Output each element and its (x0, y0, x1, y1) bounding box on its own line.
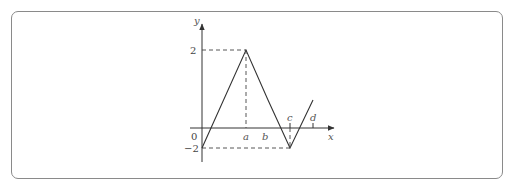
x-axis-label: x (328, 131, 334, 142)
origin-label: 0 (191, 131, 197, 142)
function-curve (202, 50, 313, 148)
function-graph: y x 0 2 −2 a b c d (0, 0, 515, 183)
y-tick-2: 2 (190, 45, 196, 56)
y-tick-neg2: −2 (184, 143, 199, 154)
x-point-b: b (262, 131, 268, 142)
x-point-c: c (287, 112, 293, 123)
x-point-a: a (243, 131, 249, 142)
x-point-d: d (310, 112, 316, 123)
y-axis-label: y (193, 15, 200, 26)
